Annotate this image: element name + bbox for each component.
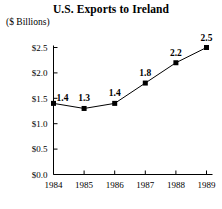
x-axis-tick-label: 1986 <box>106 180 125 190</box>
chart-figure: U.S. Exports to Ireland ($ Billions) $0.… <box>0 0 222 209</box>
y-axis-tick-label: $2.0 <box>32 68 48 78</box>
data-point-label: 2.5 <box>201 33 213 43</box>
y-axis-tick-label: $1.5 <box>32 94 48 104</box>
y-axis-tick-label: $1.0 <box>32 119 48 129</box>
data-point-label: 1.3 <box>78 93 90 103</box>
data-point-marker <box>112 101 117 106</box>
data-point-marker <box>204 45 209 50</box>
data-point-label: 2.2 <box>170 48 182 58</box>
y-axis-tick-label: $0.5 <box>32 144 48 154</box>
data-point-marker <box>173 60 178 65</box>
x-axis: 198419851986198719881989 <box>45 171 217 190</box>
x-axis-tick-label: 1989 <box>198 180 217 190</box>
data-point-labels: 1.41.31.41.82.22.5 <box>57 33 213 104</box>
data-series <box>51 45 209 111</box>
y-axis: $0.0$0.5$1.0$1.5$2.0$2.5 <box>32 43 58 180</box>
data-point-label: 1.4 <box>109 88 121 98</box>
data-point-label: 1.4 <box>57 93 69 103</box>
data-point-marker <box>82 106 87 111</box>
x-axis-tick-label: 1984 <box>45 180 64 190</box>
data-point-label: 1.8 <box>139 68 151 78</box>
x-axis-tick-label: 1987 <box>136 180 155 190</box>
series-line <box>54 48 207 109</box>
x-axis-tick-label: 1988 <box>167 180 186 190</box>
data-point-marker <box>143 81 148 86</box>
plot-area: $0.0$0.5$1.0$1.5$2.0$2.5 198419851986198… <box>0 0 222 209</box>
y-axis-tick-label: $2.5 <box>32 43 48 53</box>
y-axis-tick-label: $0.0 <box>32 170 48 180</box>
x-axis-tick-label: 1985 <box>75 180 94 190</box>
data-point-marker <box>51 101 56 106</box>
